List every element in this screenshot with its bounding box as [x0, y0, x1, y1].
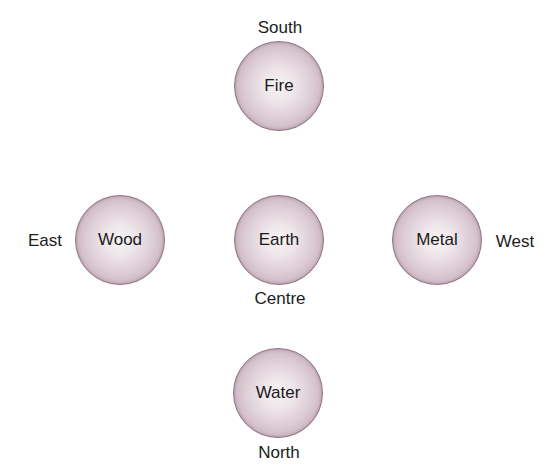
element-label-metal: Metal	[416, 230, 458, 250]
element-label-wood: Wood	[98, 230, 142, 250]
direction-label-south: South	[258, 18, 302, 38]
element-node-metal: Metal	[392, 195, 482, 285]
direction-label-west: West	[496, 232, 534, 252]
direction-label-north: North	[258, 443, 300, 463]
direction-label-centre: Centre	[254, 289, 305, 309]
element-node-water: Water	[233, 348, 323, 438]
element-label-water: Water	[256, 383, 301, 403]
element-node-wood: Wood	[75, 195, 165, 285]
element-label-earth: Earth	[259, 230, 300, 250]
element-node-earth: Earth	[234, 195, 324, 285]
direction-label-east: East	[28, 231, 62, 251]
element-label-fire: Fire	[264, 76, 293, 96]
element-node-fire: Fire	[234, 41, 324, 131]
